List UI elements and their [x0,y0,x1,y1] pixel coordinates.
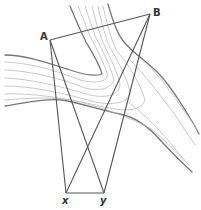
river [5,4,199,172]
construction-lines [50,14,150,193]
segment-A-B [50,14,150,40]
river-diagram [0,0,201,210]
point-label-y: y [100,196,107,206]
diagram-canvas: A B x y [0,0,201,210]
point-label-B: B [153,8,161,18]
point-label-x: x [62,196,68,206]
river-bank-upper-left [5,6,102,75]
point-label-A: A [40,32,48,42]
